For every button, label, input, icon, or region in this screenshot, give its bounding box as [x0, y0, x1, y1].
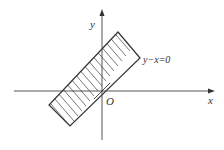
y-axis-arrow-icon — [100, 9, 105, 16]
origin-label: O — [106, 96, 114, 107]
band-outline — [49, 32, 140, 126]
x-axis-arrow-icon — [208, 89, 215, 94]
y-axis-label: y — [90, 19, 95, 30]
coordinate-diagram — [0, 0, 224, 150]
x-axis-label: x — [208, 95, 213, 106]
line-equation-label: y−x=0 — [143, 55, 170, 65]
